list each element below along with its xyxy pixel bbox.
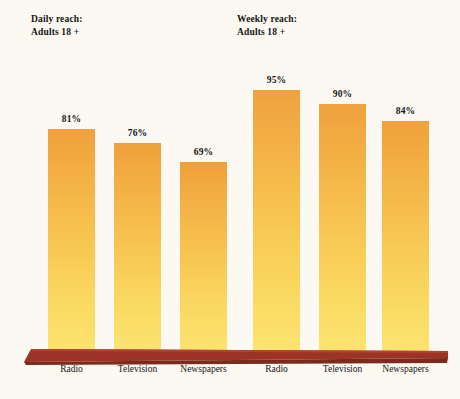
bar-value-daily-newspapers: 69% xyxy=(194,147,214,157)
chart-caption-weekly-line2: Adults 18 + xyxy=(237,26,297,39)
bar-weekly-newspapers xyxy=(382,121,429,355)
category-label-daily-newspapers: Newspapers xyxy=(180,364,226,374)
category-label-daily-radio: Radio xyxy=(60,364,83,374)
bar-daily-radio xyxy=(48,129,95,355)
category-label-weekly-newspapers: Newspapers xyxy=(382,364,428,374)
chart-caption-daily-line2: Adults 18 + xyxy=(31,26,83,39)
chart-caption-weekly-line1: Weekly reach: xyxy=(237,13,297,26)
bar-value-daily-television: 76% xyxy=(128,128,148,138)
bar-daily-television xyxy=(114,143,161,355)
bar-weekly-television xyxy=(319,104,366,355)
reach-bar-chart: Daily reach: Adults 18 + Weekly reach: A… xyxy=(0,0,460,399)
plot-area: 81% 76% 69% 95% 90% 84% xyxy=(31,40,437,355)
category-label-weekly-radio: Radio xyxy=(265,364,288,374)
bar-value-weekly-newspapers: 84% xyxy=(396,106,416,116)
bar-value-weekly-radio: 95% xyxy=(267,75,287,85)
chart-caption-weekly: Weekly reach: Adults 18 + xyxy=(237,13,297,39)
chart-caption-daily: Daily reach: Adults 18 + xyxy=(31,13,83,39)
category-label-weekly-television: Television xyxy=(323,364,362,374)
category-label-daily-television: Television xyxy=(118,364,157,374)
bar-value-daily-radio: 81% xyxy=(62,114,82,124)
chart-caption-daily-line1: Daily reach: xyxy=(31,13,83,26)
bar-weekly-radio xyxy=(253,90,300,355)
bar-value-weekly-television: 90% xyxy=(333,89,353,99)
baseline-plinth xyxy=(20,349,448,365)
bar-daily-newspapers xyxy=(180,162,227,355)
